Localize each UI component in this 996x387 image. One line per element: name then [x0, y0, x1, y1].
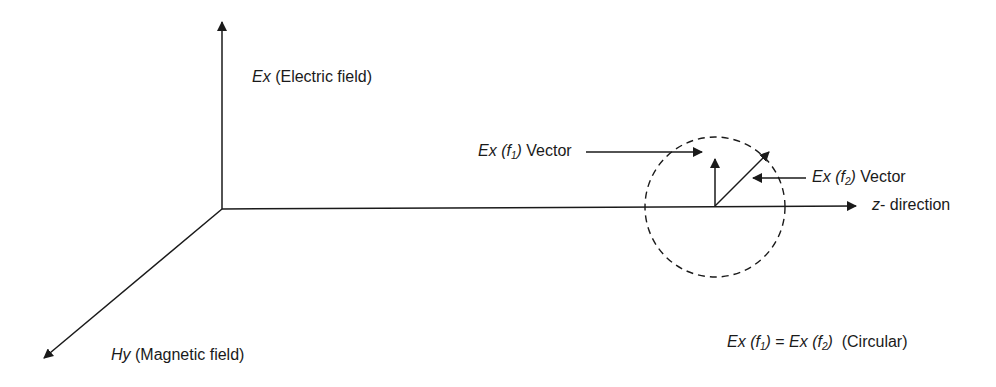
circular-equation: Ex (f1) = Ex (f2) (Circular) — [727, 334, 908, 350]
eq-equals: = — [775, 333, 784, 350]
f2-suffix: Vector — [860, 168, 905, 185]
diagram-canvas — [0, 0, 996, 387]
eq-lhs-symbol: Ex — [727, 333, 746, 350]
eq-lhs-sub: 1 — [760, 341, 766, 352]
z-axis — [222, 206, 856, 209]
ex-f1-vector-label: Ex (f1) Vector — [478, 143, 572, 159]
z-axis-label: z- direction — [872, 197, 950, 213]
ex-f2-vector-label: Ex (f2) Vector — [812, 169, 906, 185]
f1-suffix: Vector — [526, 142, 571, 159]
hy-axis-label: Hy (Magnetic field) — [111, 347, 244, 363]
z-symbol: z — [872, 196, 880, 213]
hy-symbol: Hy — [111, 346, 131, 363]
f2-close-paren: ) — [850, 168, 855, 185]
f1-symbol: Ex — [478, 142, 497, 159]
f2-symbol: Ex — [812, 168, 831, 185]
eq-note: (Circular) — [842, 333, 908, 350]
ex-description: (Electric field) — [275, 68, 372, 85]
ex-f2-vector — [715, 152, 769, 206]
eq-rhs-symbol: Ex — [789, 333, 808, 350]
ex-axis-label: Ex (Electric field) — [252, 69, 372, 85]
ex-symbol: Ex — [252, 68, 271, 85]
eq-rhs-sub: 2 — [822, 341, 828, 352]
hy-axis — [44, 209, 222, 358]
hy-description: (Magnetic field) — [135, 346, 244, 363]
z-description: - direction — [880, 196, 950, 213]
f1-close-paren: ) — [516, 142, 521, 159]
